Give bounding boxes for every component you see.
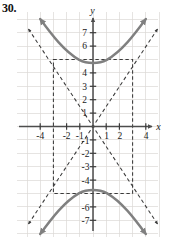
y-tick-label: 3: [82, 82, 87, 92]
y-tick-label: 6: [82, 41, 87, 51]
y-tick-label: -6: [82, 203, 90, 213]
y-tick-label: -4: [82, 176, 90, 186]
y-tick-label: 4: [82, 68, 87, 78]
x-tick-label: 4: [144, 131, 149, 141]
x-axis-label: x: [155, 121, 161, 132]
x-tick-label: -4: [36, 131, 44, 141]
y-tick-label: -2: [82, 149, 90, 159]
x-tick-label: -2: [63, 131, 71, 141]
y-tick-label: -3: [82, 162, 90, 172]
x-tick-label: 1: [104, 131, 109, 141]
y-tick-label: 2: [82, 95, 87, 105]
y-tick-label: 1: [82, 108, 87, 118]
x-tick-label: 2: [117, 131, 122, 141]
hyperbola-graph: -4 -2 -1 1 2 4 7 6 4 3 2 1 -1 -2 -3 -4 -…: [0, 0, 173, 238]
y-tick-label: -7: [82, 216, 90, 226]
y-tick-label: 7: [82, 28, 87, 38]
y-axis-label: y: [89, 5, 95, 16]
y-tick-label: -1: [82, 136, 90, 146]
